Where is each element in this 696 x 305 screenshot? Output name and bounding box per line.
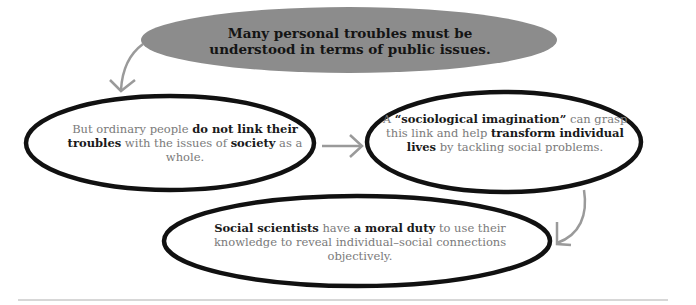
title-line-2: understood in terms of public issues. bbox=[150, 41, 550, 57]
node-ordinary-people-text: But ordinary people do not link their tr… bbox=[60, 122, 310, 164]
node-moral-duty-text: Social scientists have a moral duty to u… bbox=[200, 221, 520, 263]
title-node-text: Many personal troubles must be understoo… bbox=[150, 25, 550, 57]
seg: by tackling social problems. bbox=[436, 140, 603, 154]
seg-bold: Social scientists bbox=[214, 221, 319, 235]
node-sociological-imagination-text: A “sociological imagination” can grasp t… bbox=[380, 112, 630, 154]
arrow-right-to-bottom bbox=[557, 190, 585, 243]
seg: But ordinary people bbox=[72, 122, 192, 136]
seg: with the issues of bbox=[121, 136, 230, 150]
seg-bold: a moral duty bbox=[354, 221, 436, 235]
title-line-1: Many personal troubles must be bbox=[150, 25, 550, 41]
seg-bold: society bbox=[231, 136, 276, 150]
seg: have bbox=[319, 221, 354, 235]
seg: A bbox=[383, 112, 395, 126]
seg-bold: “sociological imagination” bbox=[395, 112, 567, 126]
